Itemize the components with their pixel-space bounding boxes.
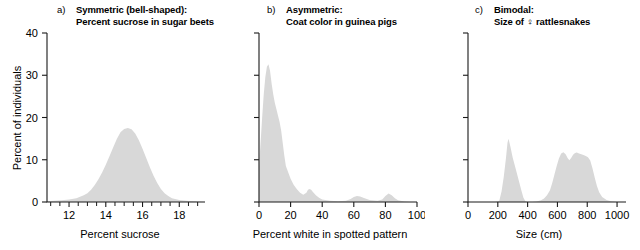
panel-a-x-axis-label: Percent sucrose (30, 228, 210, 240)
y-tick-label: 10 (26, 154, 38, 166)
distribution-curve (259, 64, 417, 202)
panel-a-plot: 01020304012141618 (0, 0, 213, 250)
panel-b-x-axis-label: Percent white in spotted pattern (230, 228, 430, 240)
y-tick-label: 20 (26, 112, 38, 124)
panel-a-symmetric: a) Symmetric (bell-shaped): Percent sucr… (0, 0, 213, 250)
x-tick-label: 80 (379, 209, 391, 221)
x-tick-label: 0 (465, 209, 471, 221)
x-tick-label: 600 (548, 209, 566, 221)
x-tick-label: 16 (136, 209, 148, 221)
panel-c-plot: 02004006008001000 (421, 0, 634, 250)
x-tick-label: 0 (256, 209, 262, 221)
x-tick-label: 20 (284, 209, 296, 221)
x-tick-label: 60 (348, 209, 360, 221)
x-tick-label: 800 (578, 209, 596, 221)
x-tick-label: 200 (489, 209, 507, 221)
y-tick-label: 40 (26, 27, 38, 39)
panel-b-plot: 020406080100 (212, 0, 425, 250)
distribution-curve (468, 139, 626, 202)
axis-lines (468, 33, 626, 202)
x-tick-label: 14 (100, 209, 112, 221)
panel-c-bimodal: c) Bimodal: Size of ♀ rattlesnakes 02004… (421, 0, 634, 250)
y-tick-label: 0 (32, 196, 38, 208)
panel-b-asymmetric: b) Asymmetric: Coat color in guinea pigs… (212, 0, 425, 250)
distribution-curve (47, 128, 205, 202)
x-tick-label: 40 (316, 209, 328, 221)
x-tick-label: 400 (518, 209, 536, 221)
x-tick-label: 1000 (605, 209, 629, 221)
distribution-figure: a) Symmetric (bell-shaped): Percent sucr… (0, 0, 640, 250)
x-tick-label: 18 (173, 209, 185, 221)
panel-c-x-axis-label: Size (cm) (449, 228, 629, 240)
y-tick-label: 30 (26, 69, 38, 81)
x-tick-label: 12 (63, 209, 75, 221)
